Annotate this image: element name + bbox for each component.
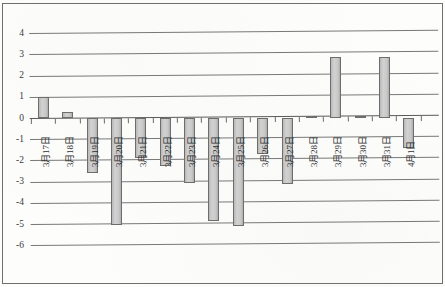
bar bbox=[355, 116, 366, 118]
x-axis-category-label: 3月25日 bbox=[234, 136, 247, 167]
x-axis-category-label: 3月26日 bbox=[258, 136, 271, 167]
x-axis-category-label: 3月24日 bbox=[209, 136, 222, 167]
bar bbox=[233, 118, 244, 226]
x-axis-category-label: 4月1日 bbox=[404, 141, 417, 167]
x-axis-category-label: 3月29日 bbox=[331, 136, 344, 167]
x-axis-category-label: 3月21日 bbox=[136, 136, 149, 167]
x-axis-category-label: 3月19日 bbox=[88, 136, 101, 167]
bar bbox=[208, 118, 219, 221]
bar bbox=[38, 97, 49, 118]
bar bbox=[62, 112, 73, 118]
bar bbox=[330, 57, 341, 118]
x-axis-category-label: 3月30日 bbox=[356, 136, 369, 167]
bar-chart: 43210-1-2-3-4-5-6 3月17日3月18日3月19日3月20日3月… bbox=[0, 0, 445, 287]
x-axis-category-label: 3月22日 bbox=[161, 136, 174, 167]
x-axis-category-label: 3月20日 bbox=[112, 136, 125, 167]
bar bbox=[111, 118, 122, 225]
x-axis-category-label: 3月31日 bbox=[380, 136, 393, 167]
bar bbox=[306, 116, 317, 118]
bar bbox=[379, 57, 390, 118]
x-axis-category-label: 3月18日 bbox=[63, 136, 76, 167]
x-axis-category-label: 3月27日 bbox=[283, 136, 296, 167]
x-axis-category-label: 3月23日 bbox=[185, 136, 198, 167]
x-axis-category-label: 3月17日 bbox=[39, 136, 52, 167]
x-axis-category-label: 3月28日 bbox=[307, 136, 320, 167]
